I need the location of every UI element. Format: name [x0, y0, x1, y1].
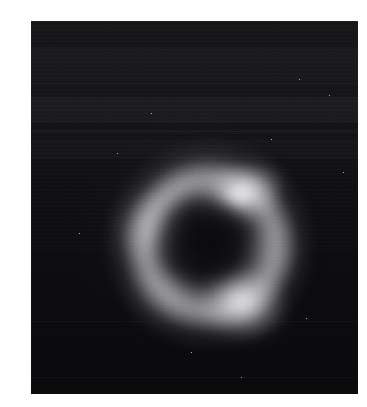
figure-page	[0, 0, 367, 407]
einstein-ring-system	[31, 21, 358, 394]
lens-galaxy-core	[157, 197, 249, 283]
astronomical-image-panel	[31, 21, 358, 394]
